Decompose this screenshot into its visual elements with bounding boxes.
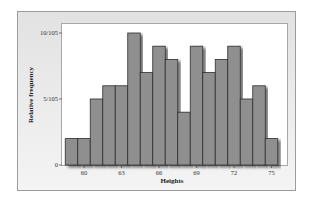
x-tick-label: 63 — [118, 169, 125, 176]
histogram-bar — [90, 99, 103, 165]
histogram-bar — [103, 86, 116, 165]
x-tick-label: 66 — [156, 169, 163, 176]
histogram-chart: 05/10510/105 606366697275 Relative frequ… — [0, 0, 312, 203]
y-tick-label: 0 — [55, 161, 58, 168]
x-tick-label: 75 — [268, 169, 275, 176]
histogram-bar — [140, 73, 153, 165]
histogram-bar — [215, 59, 228, 165]
x-axis-label: Heights — [161, 177, 184, 185]
histogram-bar — [228, 46, 241, 165]
histogram-bar — [265, 139, 278, 165]
histogram-bar — [165, 59, 178, 165]
y-axis-label: Relative frequency — [27, 66, 35, 123]
x-tick-label: 69 — [193, 169, 200, 176]
histogram-bar — [115, 86, 128, 165]
histogram-bar — [178, 112, 191, 165]
x-tick-label: 72 — [231, 169, 238, 176]
histogram-bar — [153, 46, 166, 165]
histogram-bar — [253, 86, 266, 165]
histogram-bar — [203, 73, 216, 165]
histogram-bar — [128, 33, 141, 165]
histogram-bar — [240, 99, 253, 165]
histogram-bar — [78, 139, 91, 165]
histogram-bar — [65, 139, 78, 165]
y-tick-label: 10/105 — [40, 29, 58, 36]
histogram-bar — [190, 46, 203, 165]
x-tick-label: 60 — [81, 169, 88, 176]
y-tick-label: 5/105 — [43, 95, 58, 102]
